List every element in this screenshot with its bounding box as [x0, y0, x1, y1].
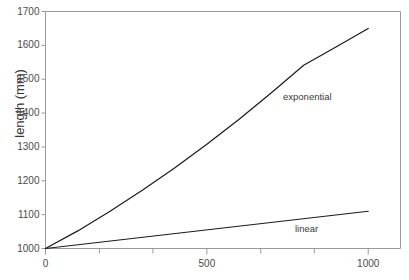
x-axis-tick-label: 500: [187, 259, 227, 269]
x-axis-tick-label: 1000: [348, 259, 388, 269]
y-axis-tick-label: 1700: [6, 7, 40, 17]
y-axis-tick-label: 1400: [6, 108, 40, 118]
y-axis-tick-label: 1200: [6, 176, 40, 186]
x-axis-tick-label: 0: [26, 259, 66, 269]
chart-figure: length (mm) exponential linear 100011001…: [0, 0, 409, 280]
y-axis-tick-label: 1500: [6, 74, 40, 84]
series-line-exponential: [46, 28, 369, 248]
y-axis-tick-label: 1100: [6, 210, 40, 220]
series-annotation-linear: linear: [295, 223, 318, 234]
y-axis-tick-label: 1600: [6, 40, 40, 50]
plot-canvas: [0, 0, 409, 280]
series-annotation-exponential: exponential: [283, 91, 332, 102]
series-line-linear: [46, 211, 369, 248]
y-axis-tick-label: 1000: [6, 244, 40, 254]
plot-frame: [46, 12, 401, 249]
y-axis-tick-label: 1300: [6, 142, 40, 152]
